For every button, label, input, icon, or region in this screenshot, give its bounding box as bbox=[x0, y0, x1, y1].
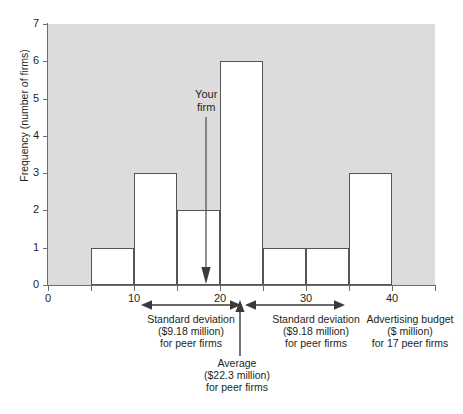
x-tick bbox=[91, 286, 92, 291]
histogram-bar bbox=[263, 248, 306, 285]
x-tick bbox=[263, 286, 264, 291]
histogram-bar bbox=[134, 173, 177, 285]
x-tick bbox=[134, 286, 135, 291]
y-tick bbox=[43, 99, 48, 100]
histogram-bar bbox=[91, 248, 134, 285]
x-tick-label: 40 bbox=[372, 292, 412, 304]
y-tick bbox=[43, 173, 48, 174]
histogram-bar bbox=[349, 173, 392, 285]
y-axis-line bbox=[47, 23, 48, 286]
histogram-figure: 01234567 010203040 Frequency (number of … bbox=[0, 0, 463, 414]
y-tick bbox=[43, 61, 48, 62]
your-firm-label: Your firm bbox=[166, 88, 246, 113]
y-tick-label: 0 bbox=[0, 279, 39, 290]
sd-left-label: Standard deviation ($9.18 million) for p… bbox=[122, 313, 260, 350]
x-tick bbox=[177, 286, 178, 291]
x-tick bbox=[306, 286, 307, 291]
your-firm-arrow-icon bbox=[199, 117, 213, 285]
y-tick bbox=[43, 24, 48, 25]
x-tick bbox=[48, 286, 49, 291]
x-tick bbox=[220, 286, 221, 291]
x-tick-label: 0 bbox=[28, 292, 68, 304]
x-tick bbox=[435, 286, 436, 291]
x-axis-line bbox=[47, 285, 436, 286]
sd-right-arrow-icon bbox=[245, 298, 345, 312]
histogram-bar bbox=[306, 248, 349, 285]
x-tick bbox=[392, 286, 393, 291]
y-tick-label: 1 bbox=[0, 242, 39, 253]
y-tick bbox=[43, 210, 48, 211]
y-axis-title: Frequency (number of firms) bbox=[19, 0, 30, 236]
x-axis-caption: Advertising budget ($ million) for 17 pe… bbox=[357, 313, 463, 350]
y-tick bbox=[43, 248, 48, 249]
sd-left-arrow-icon bbox=[141, 298, 241, 312]
y-tick bbox=[43, 136, 48, 137]
x-tick bbox=[349, 286, 350, 291]
average-label: Average ($22.3 million) for peer firms bbox=[172, 357, 302, 394]
